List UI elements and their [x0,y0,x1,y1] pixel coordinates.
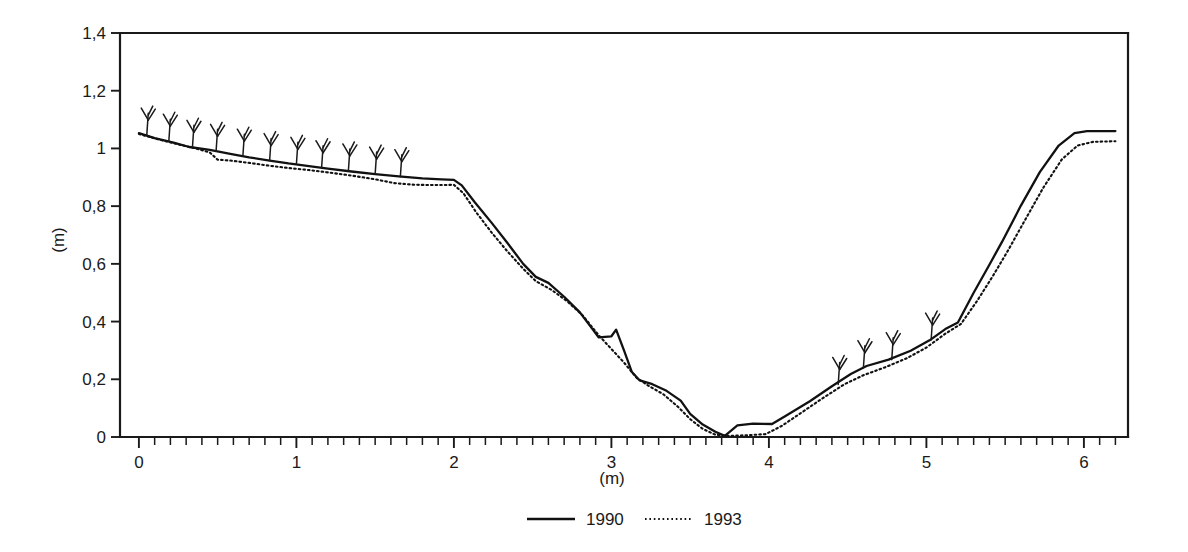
legend: 1990 1993 [527,510,742,529]
vegetation-stem [169,119,171,141]
vegetation-icon [858,339,872,368]
vegetation-stem [243,134,245,156]
x-tick-label: 6 [1079,453,1088,472]
x-axis-minor-ticks [155,437,1116,445]
y-tick-label: 0,2 [82,370,106,389]
vegetation-icon [237,127,251,156]
vegetation-stem [270,139,272,161]
vegetation-icon [141,106,155,135]
vegetation-icon [264,132,278,161]
y-tick-label: 0,4 [82,313,106,332]
vegetation-branch-left [211,124,218,136]
vegetation-stem [348,149,350,171]
vegetation-branch-left [858,341,865,353]
y-tick-label: 1,2 [82,82,106,101]
y-axis-tick-labels: 00,20,40,60,811,21,4 [82,24,106,447]
x-tick-label: 4 [764,453,773,472]
vegetation-icon [291,135,305,164]
y-tick-label: 1,4 [82,24,106,43]
vegetation-stem [216,129,218,151]
vegetation-stem [375,152,377,174]
cross-section-chart: 00,20,40,60,811,21,4 0123456 (m) (m) 199… [0,0,1188,552]
y-tick-label: 0,8 [82,197,106,216]
x-tick-label: 5 [922,453,931,472]
vegetation-branch-left [141,108,148,120]
vegetation-branch-left [886,333,893,345]
legend-label-1993: 1993 [704,510,742,529]
vegetation-branch-left [237,129,244,141]
vegetation-stem [322,146,324,168]
x-tick-label: 1 [292,453,301,472]
vegetation-stem [296,142,298,164]
vegetation-icon [187,118,201,147]
vegetation-stem [147,113,149,135]
vegetation-branch-left [316,141,323,153]
y-tick-label: 0 [97,428,106,447]
vegetation-branch-left [187,120,194,132]
y-tick-label: 0,6 [82,255,106,274]
series-line-1993 [139,134,1116,436]
vegetation-icon [211,122,225,151]
y-axis-title: (m) [49,227,68,252]
vegetation-icon [163,112,177,141]
vegetation-icon [395,148,409,177]
axis-frame [120,33,1128,437]
x-tick-label: 2 [449,453,458,472]
vegetation-stem [400,155,402,177]
vegetation-branch-left [370,147,377,159]
x-axis-title: (m) [599,469,624,488]
vegetation-icon [316,139,330,168]
legend-label-1990: 1990 [586,510,624,529]
vegetation-branch-left [395,150,402,162]
vegetation-branch-left [833,357,840,369]
vegetation-branch-left [291,137,298,149]
vegetation-branch-left [264,134,271,146]
vegetation-icon [343,142,357,171]
series-line-1990 [139,131,1116,436]
x-tick-label: 0 [134,453,143,472]
y-axis-ticks [111,33,120,437]
vegetation-marks-group [141,106,939,384]
vegetation-branch-left [926,313,933,325]
chart-figure: 00,20,40,60,811,21,4 0123456 (m) (m) 199… [0,0,1188,552]
vegetation-stem [863,346,865,368]
vegetation-stem [192,125,194,147]
vegetation-branch-left [343,144,350,156]
y-tick-label: 1 [97,139,106,158]
vegetation-stem [892,338,894,360]
vegetation-stem [931,318,933,340]
vegetation-icon [370,145,384,174]
vegetation-branch-left [163,114,170,126]
